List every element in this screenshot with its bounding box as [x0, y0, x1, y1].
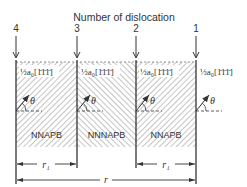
dislocation-number-4: 4 — [13, 23, 19, 34]
dislocation-number-1: 1 — [193, 23, 199, 34]
theta-label-4: θ — [30, 95, 35, 106]
theta-label-3: θ — [91, 95, 96, 106]
burgers-vector-label-4: ½a₀[1̄1̄1̄] — [20, 67, 53, 77]
dislocation-number-3: 3 — [74, 23, 80, 34]
burgers-vector-label-2: ½a₀[1̄1̄1̄] — [140, 67, 173, 77]
burgers-vector-label-1: ½a₀[1̄1̄1̄] — [200, 67, 233, 77]
down-arrow-icons — [13, 36, 199, 58]
diagram-title: Number of dislocation — [73, 11, 175, 23]
burgers-vector-label-3: ½a₀[1̄1̄1̄] — [81, 67, 114, 77]
region-label-nnapb-right: NNAPB — [150, 130, 181, 140]
region-label-nnnapb: NNNAPB — [88, 130, 126, 140]
dislocation-diagram: Number of dislocation 4 3 2 1 ½a₀[1̄1̄1̄… — [0, 0, 247, 187]
theta-label-1: θ — [210, 95, 215, 106]
r1-right-label: r₁ — [162, 159, 169, 170]
r-label: r — [104, 174, 108, 185]
region-label-nnapb-left: NNAPB — [31, 130, 62, 140]
theta-label-2: θ — [150, 95, 155, 106]
dislocation-number-2: 2 — [133, 23, 139, 34]
angle-marker-1 — [196, 95, 222, 111]
r1-left-label: r₁ — [42, 159, 49, 170]
